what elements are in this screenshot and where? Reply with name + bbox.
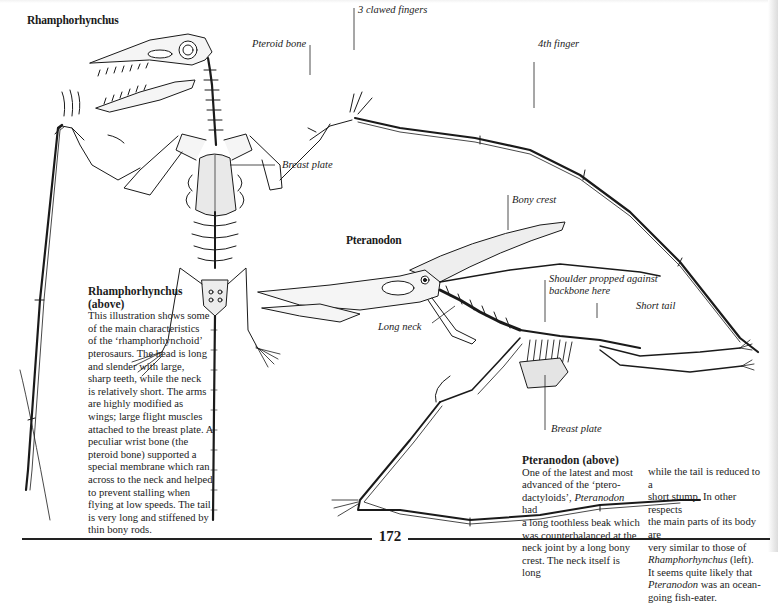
label-shoulder: Shoulder propped against backbone here xyxy=(549,273,658,297)
pteranodon-caption-col1: Pteranodon (above) One of the latest and… xyxy=(522,454,640,580)
caption-line: very similar to those of xyxy=(648,542,766,555)
caption-line: across to the neck and helped xyxy=(88,474,218,487)
label-shoulder-line1: Shoulder propped against xyxy=(549,273,658,284)
caption-italic-name: Rhamphorhynchus xyxy=(648,554,727,565)
caption-line: to prevent stalling when xyxy=(88,487,218,500)
caption-line: and slender with large, xyxy=(88,361,218,374)
caption-line: was counterbalanced at the xyxy=(522,530,640,543)
caption-line: is very long and stiffened by xyxy=(88,512,218,525)
caption-line: dactyloids’, Pteranodon had xyxy=(522,492,640,517)
caption-italic-name: Pteranodon xyxy=(648,579,698,590)
caption-line: sharp teeth, while the neck xyxy=(88,373,218,386)
caption-line: advanced of the ‘ptero- xyxy=(522,479,640,492)
pteranodon-heading: Pteranodon xyxy=(346,234,402,246)
pteranodon-caption-col2: while the tail is reduced to a short stu… xyxy=(648,466,766,605)
caption-line: short stump. In other respects xyxy=(648,491,766,516)
caption-italic-name: Pteranodon xyxy=(574,492,624,503)
caption-line: One of the latest and most xyxy=(522,467,640,480)
caption-line: This illustration shows some xyxy=(88,310,218,323)
label-shoulder-line2: backbone here xyxy=(549,285,610,296)
caption-line: of the main characteristics xyxy=(88,323,218,336)
caption-text: dactyloids’, xyxy=(522,492,574,503)
caption-line: a long toothless beak which xyxy=(522,517,640,530)
caption-line: crest. The neck itself is long xyxy=(522,555,640,580)
rhamphorhynchus-heading: Rhamphorhynchus xyxy=(27,14,119,26)
caption-text: had xyxy=(522,504,537,515)
caption-line: peculiar wrist bone (the xyxy=(88,436,218,449)
label-4th-finger: 4th finger xyxy=(538,38,579,49)
caption-title: Pteranodon (above) xyxy=(522,454,640,467)
caption-line: pterosaurs. The head is long xyxy=(88,348,218,361)
leader-long-neck xyxy=(432,306,455,323)
caption-line: wings; large flight muscles xyxy=(88,411,218,424)
caption-line: going fish-eater. xyxy=(648,592,766,605)
label-long-neck: Long neck xyxy=(378,321,421,332)
footer-rule-right xyxy=(408,538,770,540)
caption-line: Pteranodon was an ocean- xyxy=(648,579,766,592)
caption-line: thin bony rods. xyxy=(88,524,218,537)
page-number: 172 xyxy=(372,528,408,545)
caption-text: was an ocean- xyxy=(698,579,761,590)
caption-line: flying at low speeds. The tail xyxy=(88,499,218,512)
label-bony-crest: Bony crest xyxy=(512,194,556,205)
caption-line: attached to the breast plate. A xyxy=(88,424,218,437)
caption-line: are highly modified as xyxy=(88,398,218,411)
rhamphorhynchus-caption: Rhamphorhynchus (above) This illustratio… xyxy=(88,285,218,537)
caption-line: while the tail is reduced to a xyxy=(648,466,766,491)
label-breast-plate-pteranodon: Breast plate xyxy=(551,423,602,434)
label-pteroid-bone: Pteroid bone xyxy=(252,38,306,49)
label-short-tail: Short tail xyxy=(636,300,675,311)
caption-line: is relatively short. The arms xyxy=(88,386,218,399)
label-breast-plate-rhamphorhynchus: Breast plate xyxy=(282,159,333,170)
caption-line: It seems quite likely that xyxy=(648,567,766,580)
label-3-clawed-fingers: 3 clawed fingers xyxy=(358,4,427,15)
caption-line: special membrane which ran xyxy=(88,461,218,474)
caption-title-line2: (above) xyxy=(88,298,218,311)
caption-line: neck joint by a long bony xyxy=(522,542,640,555)
caption-line: Rhamphorhynchus (left). xyxy=(648,554,766,567)
footer-rule-left xyxy=(22,538,372,540)
caption-text: (left). xyxy=(727,554,753,565)
caption-line: pteroid bone) supported a xyxy=(88,449,218,462)
caption-title-line1: Rhamphorhynchus xyxy=(88,285,218,298)
caption-line: of the ‘rhamphorhynchoid’ xyxy=(88,335,218,348)
